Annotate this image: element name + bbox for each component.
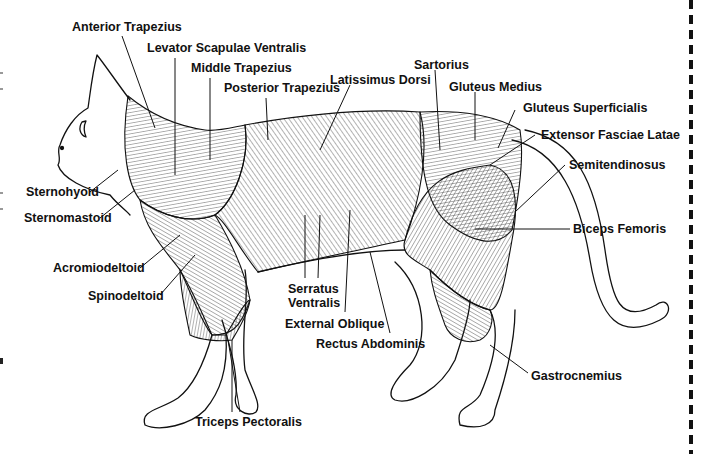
edge-mark <box>0 72 3 74</box>
label-semitendinosus: Semitendinosus <box>569 158 666 172</box>
label-sartorius: Sartorius <box>414 58 469 72</box>
edge-mark <box>0 208 3 210</box>
label-rectus-abdominis: Rectus Abdominis <box>316 337 425 351</box>
label-biceps-femoris: Biceps Femoris <box>573 222 666 236</box>
label-serratus-ventralis: Serratus Ventralis <box>288 282 340 310</box>
label-sternomastoid: Sternomastoid <box>24 211 112 225</box>
label-external-oblique: External Oblique <box>285 317 384 331</box>
label-anterior-trapezius: Anterior Trapezius <box>72 20 182 34</box>
label-posterior-trapezius: Posterior Trapezius <box>224 81 340 95</box>
label-middle-trapezius: Middle Trapezius <box>191 61 292 75</box>
muscle-latissimus <box>215 111 424 272</box>
muscle-thigh <box>404 165 515 310</box>
label-gluteus-superficialis: Gluteus Superficialis <box>523 101 647 115</box>
edge-mark <box>0 88 3 90</box>
edge-mark <box>0 192 3 194</box>
label-spinodeltoid: Spinodeltoid <box>88 289 164 303</box>
eye-outline <box>80 121 86 137</box>
dashed-cut-line <box>689 0 693 454</box>
label-levator-scapulae-ventralis: Levator Scapulae Ventralis <box>147 41 306 55</box>
cat-muscle-diagram: Anterior Trapezius Levator Scapulae Vent… <box>0 0 702 454</box>
label-latissimus-dorsi: Latissimus Dorsi <box>330 73 431 87</box>
label-gluteus-medius: Gluteus Medius <box>449 80 542 94</box>
label-triceps-pectoralis: Triceps Pectoralis <box>195 415 302 429</box>
label-sternohyoid: Sternohyoid <box>26 185 99 199</box>
label-gastrocnemius: Gastrocnemius <box>531 369 622 383</box>
label-extensor-fasciae-latae: Extensor Fasciae Latae <box>541 128 680 142</box>
front-leg-front <box>144 335 226 428</box>
label-acromiodeltoid: Acromiodeltoid <box>53 261 145 275</box>
edge-mark <box>0 358 3 364</box>
